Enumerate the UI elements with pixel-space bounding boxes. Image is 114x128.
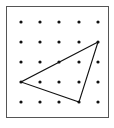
- geoboard-figure: [0, 0, 114, 128]
- grid-dot: [77, 40, 80, 43]
- grid-dot: [19, 40, 22, 43]
- grid-dot: [38, 40, 41, 43]
- grid-dot: [57, 20, 60, 23]
- grid-dot: [19, 60, 22, 63]
- grid-dot: [77, 80, 80, 83]
- grid-dot: [96, 60, 99, 63]
- grid-dot: [77, 20, 80, 23]
- grid-dot: [96, 20, 99, 23]
- grid-dot: [77, 60, 80, 63]
- grid-dot: [57, 100, 60, 103]
- grid-dot: [57, 40, 60, 43]
- grid-dot: [38, 20, 41, 23]
- grid-dot: [38, 60, 41, 63]
- grid-dot: [19, 100, 22, 103]
- grid-dot: [38, 80, 41, 83]
- grid-dot: [38, 100, 41, 103]
- grid-dot: [96, 80, 99, 83]
- grid-dot: [57, 80, 60, 83]
- grid-dot: [96, 100, 99, 103]
- grid-dot: [19, 20, 22, 23]
- triangle: [21, 42, 98, 102]
